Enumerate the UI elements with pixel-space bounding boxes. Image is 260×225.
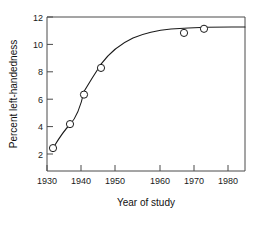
data-point-1946 [97,64,104,71]
y-tick-label-8: 8 [38,67,43,77]
x-tick-label-1930: 1930 [37,176,57,186]
chart-figure: 12 10 8 6 4 2 1930 1940 1950 1960 1970 1… [0,0,260,225]
y-tick-label-2: 2 [38,150,43,160]
data-point-1941 [80,91,87,98]
y-tick-label-12: 12 [33,13,43,23]
y-tick-label-6: 6 [38,95,43,105]
data-point-1966 [180,29,187,36]
x-tick-label-1980: 1980 [218,176,238,186]
data-point-1932 [49,145,56,152]
chart-background [0,0,260,225]
y-tick-label-4: 4 [38,122,43,132]
x-tick-label-1950: 1950 [105,176,125,186]
y-tick-label-10: 10 [33,40,43,50]
y-axis-title: Percent left-handedness [8,40,19,148]
x-tick-label-1960: 1960 [150,176,170,186]
data-point-1972 [200,25,207,32]
x-tick-label-1970: 1970 [184,176,204,186]
left-handedness-scatter-chart: 12 10 8 6 4 2 1930 1940 1950 1960 1970 1… [0,0,260,225]
x-tick-label-1940: 1940 [71,176,91,186]
data-point-1937 [66,121,73,128]
x-axis-title: Year of study [117,197,175,208]
